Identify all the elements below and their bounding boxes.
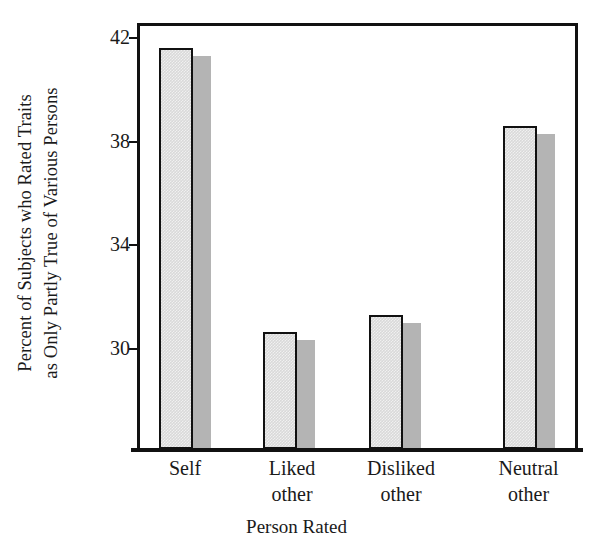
bar-shadow-self	[193, 56, 211, 449]
y-tick-label-34: 34	[86, 234, 130, 254]
x-tick-label-neutral-other: Neutral other	[466, 455, 591, 507]
x-tick-label-neutral-other-line-2: other	[466, 481, 591, 507]
y-axis-title: Percent of Subjects who Rated Traits as …	[8, 18, 68, 448]
x-tick-label-liked-other-line-2: other	[232, 481, 352, 507]
y-tick-label-38: 38	[86, 131, 130, 151]
y-tick-label-30: 30	[86, 338, 130, 358]
x-tick-label-liked-other: Liked other	[232, 455, 352, 507]
y-axis-title-line-1: Percent of Subjects who Rated Traits	[12, 87, 38, 378]
bar-liked-other	[263, 332, 297, 449]
x-axis-title: Person Rated	[0, 516, 593, 538]
x-tick-label-liked-other-line-1: Liked	[232, 455, 352, 481]
x-axis-line	[131, 448, 583, 452]
x-tick-label-self-line-1: Self	[125, 455, 245, 481]
x-tick-label-disliked-other: Disliked other	[336, 455, 466, 507]
bar-neutral-other	[503, 126, 537, 449]
y-tick-label-42: 42	[86, 27, 130, 47]
bar-shadow-liked-other	[297, 340, 315, 449]
y-axis-title-line-2: as Only Partly True of Various Persons	[38, 87, 64, 378]
bar-disliked-other	[369, 315, 403, 449]
x-tick-label-disliked-other-line-1: Disliked	[336, 455, 466, 481]
x-tick-label-self: Self	[125, 455, 245, 481]
bar-shadow-disliked-other	[403, 323, 421, 449]
y-axis-tick-labels: 42 38 34 30	[78, 0, 130, 559]
x-tick-label-neutral-other-line-1: Neutral	[466, 455, 591, 481]
bar-shadow-neutral-other	[537, 134, 555, 449]
x-tick-label-disliked-other-line-2: other	[336, 481, 466, 507]
bar-chart: Percent of Subjects who Rated Traits as …	[0, 0, 593, 559]
bar-self	[159, 48, 193, 449]
